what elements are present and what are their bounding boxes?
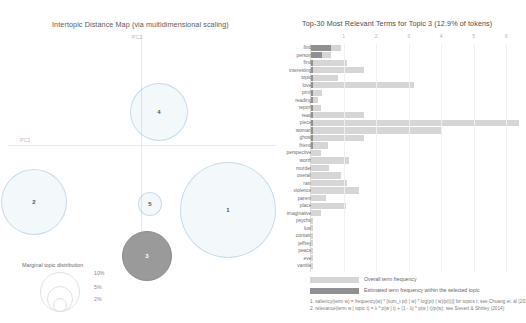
bar-term-label[interactable]: vanitie [297, 262, 311, 269]
x-axis-tick-label: 5 [472, 33, 475, 39]
bar-row[interactable]: ghost [283, 134, 526, 142]
bar-term-label[interactable]: peace [298, 247, 311, 254]
topic-circle-1[interactable]: 1 [180, 162, 276, 258]
bar-overall-frequency [311, 187, 359, 193]
bar-row[interactable]: place [283, 202, 526, 210]
x-axis-gridline [506, 44, 507, 272]
bar-overall-frequency [311, 210, 321, 216]
bar-row[interactable]: violence [283, 187, 526, 195]
bar-row[interactable]: print [283, 89, 526, 97]
bar-row[interactable]: contain [283, 232, 526, 240]
bar-row[interactable]: eve [283, 255, 526, 263]
bar-overall-frequency [311, 60, 347, 66]
bar-overall-frequency [311, 120, 519, 126]
bar-overall-frequency [311, 225, 313, 231]
footnotes: 1. saliency(term w) = frequency(w) * [su… [310, 299, 525, 312]
topic-circle-4[interactable]: 4 [130, 83, 188, 141]
x-axis-gridline [409, 44, 410, 272]
bar-term-label[interactable]: murder [296, 165, 312, 172]
bar-topic-frequency [311, 90, 313, 96]
bar-term-label[interactable]: piece [300, 119, 312, 126]
bar-term-label[interactable]: reading [295, 97, 311, 104]
topic-circle-5[interactable]: 5 [138, 192, 162, 216]
bar-overall-frequency [311, 67, 364, 73]
bar-row[interactable]: worth [283, 157, 526, 165]
bar-row[interactable]: psycho [283, 217, 526, 225]
bar-topic-frequency [311, 127, 313, 133]
topic-circle-2[interactable]: 2 [1, 169, 67, 235]
bar-row[interactable]: jeffrey [283, 240, 526, 248]
bar-term-label[interactable]: overall [297, 172, 311, 179]
bar-row[interactable]: love [283, 82, 526, 90]
bar-row[interactable]: parent [283, 194, 526, 202]
x-axis-gridline [344, 44, 345, 272]
topic-circle-label: 5 [148, 201, 151, 207]
bar-row[interactable]: reading [283, 97, 526, 105]
bar-overall-frequency [311, 263, 313, 269]
bar-term-label[interactable]: jeffrey [298, 240, 311, 247]
bar-term-label[interactable]: perspective [286, 149, 311, 156]
bar-term-label[interactable]: violence [294, 187, 312, 194]
bar-term-label[interactable]: topic [301, 74, 311, 81]
bar-row[interactable]: perspective [283, 149, 526, 157]
bar-term-label[interactable]: report [299, 104, 312, 111]
bar-row[interactable]: woman [283, 127, 526, 135]
bar-term-label[interactable]: place [300, 202, 312, 209]
pc2-axis-label: PC2 [132, 34, 143, 40]
topic-circle-label: 4 [157, 109, 160, 115]
x-axis-gridline [441, 44, 442, 272]
x-axis-tick-label: 3 [407, 33, 410, 39]
bar-term-label[interactable]: woman [296, 127, 312, 134]
bar-row[interactable]: topic [283, 74, 526, 82]
bar-topic-frequency [311, 67, 313, 73]
bar-row[interactable]: lust [283, 224, 526, 232]
bar-topic-frequency [311, 82, 313, 88]
bar-row[interactable]: peace [283, 247, 526, 255]
x-axis-gridline [376, 44, 377, 272]
x-axis-tick-label: 4 [440, 33, 443, 39]
bar-row[interactable]: find [283, 44, 526, 52]
bar-overall-frequency [311, 248, 313, 254]
bar-overall-frequency [311, 172, 341, 178]
marginal-legend-label: 5% [94, 284, 102, 290]
bar-row[interactable]: person [283, 52, 526, 60]
bar-topic-frequency [311, 97, 313, 103]
pc1-axis-label: PC1 [20, 137, 31, 143]
bar-topic-frequency [311, 52, 322, 58]
bar-topic-frequency [311, 75, 313, 81]
intertopic-scatter-plot[interactable]: PC2 PC1 12345 [0, 32, 283, 260]
bar-term-label[interactable]: psycho [296, 217, 312, 224]
bar-term-label[interactable]: person [297, 52, 312, 59]
bar-term-label[interactable]: contain [296, 232, 312, 239]
bar-term-label[interactable]: worth [300, 157, 312, 164]
bar-term-label[interactable]: friend [299, 142, 311, 149]
bar-term-label[interactable]: ghost [300, 134, 312, 141]
bar-row[interactable]: read [283, 112, 526, 120]
bar-row[interactable]: rain [283, 179, 526, 187]
bar-topic-frequency [311, 60, 313, 66]
x-axis-tick-label: 2 [375, 33, 378, 39]
bar-row[interactable]: vanitie [283, 262, 526, 270]
marginal-legend-circle-10 [40, 272, 80, 312]
bar-row[interactable]: report [283, 104, 526, 112]
marginal-legend-title: Marginal topic distribution [22, 262, 83, 268]
bar-term-label[interactable]: parent [298, 195, 312, 202]
x-axis-tick-label: 1 [342, 33, 345, 39]
bar-overall-frequency [311, 142, 328, 148]
bar-topic-frequency [311, 45, 331, 51]
bar-overall-frequency [311, 150, 321, 156]
bar-term-label[interactable]: interesting [289, 67, 312, 74]
bar-row[interactable]: piece [283, 119, 526, 127]
vertical-axis-line [141, 36, 142, 258]
bar-overall-frequency [311, 82, 414, 88]
bar-row[interactable]: overall [283, 172, 526, 180]
bar-chart-plot-area[interactable]: findpersonfindinterestingtopicloveprintr… [283, 44, 526, 272]
bar-overall-frequency [311, 195, 326, 201]
bar-row[interactable]: interesting [283, 67, 526, 75]
bar-row[interactable]: murder [283, 164, 526, 172]
bar-row[interactable]: imaginative [283, 209, 526, 217]
bar-row[interactable]: friend [283, 142, 526, 150]
bar-row[interactable]: find [283, 59, 526, 67]
bar-term-label[interactable]: imaginative [287, 210, 312, 217]
horizontal-axis-line [8, 145, 276, 146]
